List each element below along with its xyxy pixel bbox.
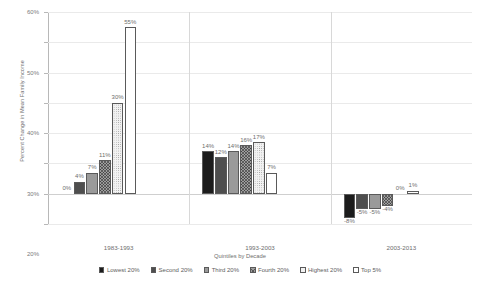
bar[interactable] <box>369 194 381 209</box>
plot-area: 60%50%40%30%20%10%0%-10%0%4%7%11%30%55%1… <box>48 12 472 224</box>
bar-value-label: 12% <box>215 149 227 155</box>
x-axis-group-label: 2003-2013 <box>387 244 417 251</box>
bar[interactable] <box>253 142 265 193</box>
legend-swatch-icon <box>353 267 359 273</box>
y-tick: 50% <box>44 42 48 43</box>
bar-value-label: 1% <box>409 182 418 188</box>
legend-item-third-20[interactable]: Third 20% <box>204 267 239 273</box>
y-axis-tick-label: 40% <box>27 130 39 136</box>
bar[interactable] <box>266 173 278 194</box>
bar[interactable] <box>382 194 394 206</box>
x-axis-title: Quintiles by Decade <box>0 253 480 259</box>
bar-value-label: 17% <box>253 134 265 140</box>
bar-value-label: 14% <box>227 143 239 149</box>
gridline-50 <box>48 42 472 43</box>
x-axis-group-label: 1983-1993 <box>104 244 134 251</box>
bar[interactable] <box>240 145 252 193</box>
bar[interactable] <box>74 182 86 194</box>
y-axis-tick-label: 30% <box>27 191 39 197</box>
legend-item-lowest-20[interactable]: Lowest 20% <box>99 267 140 273</box>
y-axis-title: Percent Change in Mean Family Income <box>19 26 25 196</box>
bar[interactable] <box>202 151 214 193</box>
bar[interactable] <box>344 194 356 218</box>
bar-value-label: 14% <box>202 143 214 149</box>
y-tick: 10% <box>44 163 48 164</box>
gridline-0 <box>48 194 472 195</box>
legend-swatch-icon <box>300 267 306 273</box>
bar-value-label: -8% <box>344 218 355 224</box>
y-tick: 20% <box>44 133 48 134</box>
legend-item-highest-20[interactable]: Highest 20% <box>300 267 342 273</box>
bar-value-label: 0% <box>396 185 405 191</box>
y-axis-tick-label: 50% <box>27 70 39 76</box>
bar[interactable] <box>356 194 368 209</box>
bar-value-label: 55% <box>124 19 136 25</box>
legend-swatch-icon <box>204 267 210 273</box>
legend-label: Lowest 20% <box>107 267 140 273</box>
legend-label: Fourth 20% <box>258 267 289 273</box>
x-axis-group-label: 1993-2003 <box>245 244 275 251</box>
bar[interactable] <box>215 157 227 193</box>
bar-value-label: 11% <box>99 152 111 158</box>
gridline-60 <box>48 12 472 13</box>
gridline-40 <box>48 73 472 74</box>
y-tick: 0% <box>44 194 48 195</box>
y-axis-line <box>48 12 49 224</box>
legend-item-second-20[interactable]: Second 20% <box>151 267 193 273</box>
bar[interactable] <box>112 103 124 194</box>
y-tick: -10% <box>44 224 48 225</box>
y-tick: 30% <box>44 103 48 104</box>
y-tick: 60% <box>44 12 48 13</box>
bar-value-label: -5% <box>357 209 368 215</box>
bar[interactable] <box>86 173 98 194</box>
legend-item-top-5[interactable]: Top 5% <box>353 267 381 273</box>
legend-swatch-icon <box>151 267 157 273</box>
legend-label: Second 20% <box>159 267 193 273</box>
legend-label: Highest 20% <box>308 267 342 273</box>
group-separator <box>189 12 190 224</box>
bar[interactable] <box>228 151 240 193</box>
y-tick: 40% <box>44 73 48 74</box>
gridline--10 <box>48 224 472 225</box>
bar[interactable] <box>125 27 137 194</box>
chart-legend: Lowest 20%Second 20%Third 20%Fourth 20%H… <box>0 267 480 273</box>
bar-value-label: 4% <box>75 173 84 179</box>
legend-item-fourth-20[interactable]: Fourth 20% <box>250 267 289 273</box>
bar-value-label: 7% <box>267 164 276 170</box>
bar-value-label: 30% <box>112 94 124 100</box>
bar[interactable] <box>407 191 419 194</box>
bar-value-label: -5% <box>369 209 380 215</box>
legend-label: Third 20% <box>212 267 239 273</box>
bar-value-label: 0% <box>62 185 71 191</box>
legend-swatch-icon <box>99 267 105 273</box>
bar-chart: Percent Change in Mean Family Income 60%… <box>0 0 480 289</box>
legend-swatch-icon <box>250 267 256 273</box>
group-separator <box>331 12 332 224</box>
bar[interactable] <box>99 160 111 193</box>
bar-value-label: -4% <box>382 206 393 212</box>
bar-value-label: 16% <box>240 137 252 143</box>
bar-value-label: 7% <box>88 164 97 170</box>
legend-label: Top 5% <box>361 267 381 273</box>
y-axis-tick-label: 60% <box>27 9 39 15</box>
